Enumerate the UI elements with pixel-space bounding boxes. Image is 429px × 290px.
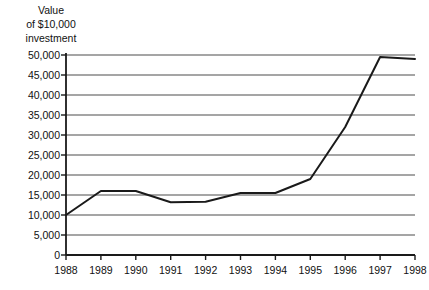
axis-group bbox=[66, 53, 415, 255]
gridline-group bbox=[66, 55, 415, 235]
data-line-series-1 bbox=[66, 57, 415, 215]
chart-plot-svg bbox=[0, 0, 429, 290]
chart-container: Value of $10,000 investment 05,00010,000… bbox=[0, 0, 429, 290]
